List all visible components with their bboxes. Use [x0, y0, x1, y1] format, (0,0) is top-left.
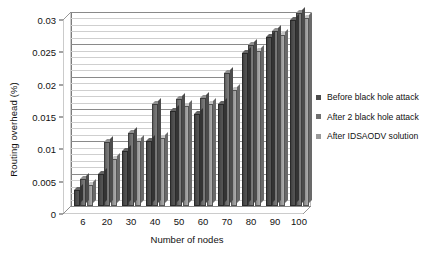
bar: [74, 190, 80, 206]
bar-side-face: [104, 168, 107, 203]
x-axis-tick: 100: [291, 216, 307, 227]
y-axis-tick: 0.005: [32, 176, 56, 187]
bar-side-face: [134, 127, 137, 203]
x-axis-title: Number of nodes: [63, 234, 311, 245]
bar-side-face: [189, 100, 192, 203]
bar-face: [194, 114, 200, 206]
bar-side-face: [86, 173, 89, 203]
bar-chart-figure: Routing overhead (%) 00.0050.010.0150.02…: [0, 0, 444, 258]
bar-face: [146, 141, 152, 206]
bar-group: [290, 12, 309, 206]
bar-group: [170, 12, 189, 206]
x-axis-tick: 6: [80, 216, 85, 227]
y-axis-tick: 0.03: [38, 15, 57, 26]
bar-side-face: [213, 98, 216, 203]
bar-side-face: [278, 25, 281, 203]
x-axis-tick: 50: [174, 216, 185, 227]
legend-item: After IDSAODV solution: [316, 132, 442, 141]
bar: [146, 141, 152, 206]
legend-swatch-icon: [316, 95, 321, 100]
bar-face: [74, 190, 80, 206]
bar-side-face: [128, 145, 131, 203]
bar: [98, 174, 104, 206]
bar-group: [266, 12, 285, 206]
bar-face: [242, 53, 248, 206]
bar-face: [290, 20, 296, 206]
bar: [170, 111, 176, 206]
bar-group: [218, 12, 237, 206]
bar-side-face: [224, 98, 227, 203]
bar: [242, 53, 248, 206]
bar: [194, 114, 200, 206]
y-axis-tick: 0: [51, 209, 56, 220]
legend-swatch-icon: [316, 114, 321, 119]
bar-side-face: [158, 98, 161, 203]
x-axis-tick: 80: [246, 216, 257, 227]
plot-area: [63, 12, 311, 214]
x-axis-tick: 30: [126, 216, 137, 227]
y-axis-tick: 0.025: [32, 47, 56, 58]
bar-group: [98, 12, 117, 206]
bar-side-face: [200, 108, 203, 203]
y-axis-tick: 0.02: [38, 79, 57, 90]
bar-side-face: [230, 67, 233, 203]
x-axis-tick: 70: [222, 216, 233, 227]
bar-side-face: [165, 132, 168, 203]
bar-group: [122, 12, 141, 206]
bar-side-face: [176, 105, 179, 203]
bar-side-face: [254, 39, 257, 203]
chart-bars: [63, 12, 311, 214]
y-axis-title-text: Routing overhead (%): [8, 82, 19, 176]
bar-group: [242, 12, 261, 206]
x-axis-tick: 60: [198, 216, 209, 227]
x-axis-tick: 20: [102, 216, 113, 227]
x-axis-tick-labels: 62030405060708090100: [63, 216, 311, 232]
bar-side-face: [309, 12, 312, 203]
bar-side-face: [117, 153, 120, 203]
bar: [290, 20, 296, 206]
y-axis-tick: 0.01: [38, 144, 57, 155]
x-axis-tick: 40: [150, 216, 161, 227]
bar-side-face: [272, 31, 275, 203]
bar-side-face: [302, 7, 305, 203]
legend-item-label: After 2 black hole attack: [327, 113, 419, 122]
bar: [218, 104, 224, 206]
x-axis-tick: 90: [270, 216, 281, 227]
bar-group: [146, 12, 165, 206]
bar-side-face: [206, 92, 209, 203]
y-axis-tick-labels: 00.0050.010.0150.020.0250.03: [20, 0, 58, 258]
bar-side-face: [93, 179, 96, 203]
bar-side-face: [261, 45, 264, 203]
bar-side-face: [80, 184, 83, 203]
legend-swatch-icon: [316, 134, 321, 139]
bar-side-face: [182, 93, 185, 203]
bar: [122, 151, 128, 206]
bar-side-face: [285, 29, 288, 203]
chart-legend: Before black hole attackAfter 2 black ho…: [316, 93, 442, 152]
bar-face: [218, 104, 224, 206]
bar-group: [194, 12, 213, 206]
bar-face: [122, 151, 128, 206]
legend-item: Before black hole attack: [316, 93, 442, 102]
bar-face: [266, 37, 272, 206]
bar-side-face: [237, 84, 240, 203]
legend-item-label: Before black hole attack: [327, 93, 419, 102]
legend-item: After 2 black hole attack: [316, 113, 442, 122]
bar-side-face: [141, 135, 144, 203]
bar-group: [74, 12, 93, 206]
bar-face: [98, 174, 104, 206]
bar-side-face: [248, 47, 251, 203]
bar-face: [170, 111, 176, 206]
bar-side-face: [296, 14, 299, 203]
bar-side-face: [152, 135, 155, 203]
bar: [266, 37, 272, 206]
legend-item-label: After IDSAODV solution: [327, 132, 418, 141]
y-axis-tick: 0.015: [32, 112, 56, 123]
bar-side-face: [110, 136, 113, 203]
